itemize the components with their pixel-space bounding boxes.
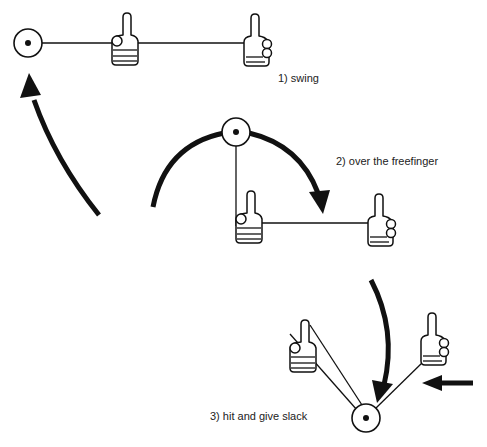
straight-arrow-icon bbox=[422, 375, 473, 391]
thumbs-up-hand-icon bbox=[368, 194, 396, 246]
step-1-label: 1) swing bbox=[278, 72, 319, 84]
pivot-circle-icon bbox=[352, 404, 380, 432]
thumbs-up-hand-icon bbox=[112, 13, 138, 65]
step-1-swing: 1) swing bbox=[14, 13, 319, 84]
step-2-over-the-freefinger: 2) over the freefinger bbox=[153, 118, 438, 246]
step-3-hit-and-give-slack: 3) hit and give slack bbox=[210, 280, 473, 432]
pivot-circle-icon bbox=[222, 118, 250, 146]
thumbs-up-hand-icon bbox=[236, 191, 262, 243]
thumbs-up-hand-icon bbox=[421, 313, 449, 365]
curved-arrow-icon bbox=[20, 73, 99, 215]
pivot-circle-icon bbox=[14, 29, 42, 57]
curved-arrow-icon bbox=[371, 280, 393, 403]
thumbs-up-hand-icon bbox=[244, 14, 272, 66]
step-2-label: 2) over the freefinger bbox=[336, 155, 438, 167]
technique-diagram: 1) swing 2) over the freefinger bbox=[0, 0, 487, 447]
step-3-label: 3) hit and give slack bbox=[210, 410, 308, 422]
